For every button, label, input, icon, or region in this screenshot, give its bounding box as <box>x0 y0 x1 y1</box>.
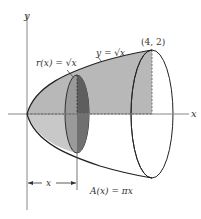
endpoint-label: (4, 2) <box>141 37 165 47</box>
arrowhead-left-icon <box>28 181 33 185</box>
arrowhead-right-icon <box>71 181 76 185</box>
y-axis-label: y <box>23 10 30 21</box>
solid-of-revolution-diagram: y x (4, 2) y = √x r(x) = √x x A(x) = πx <box>0 0 201 219</box>
radius-equation-label: r(x) = √x <box>36 58 76 68</box>
curve-equation-label: y = √x <box>95 48 125 58</box>
area-formula-label: A(x) = πx <box>89 186 133 196</box>
x-axis-label: x <box>191 108 197 119</box>
distance-label: x <box>46 178 51 188</box>
